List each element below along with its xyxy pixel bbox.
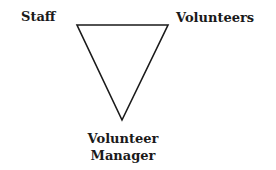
label-volunteer-manager-line2: Manager bbox=[0, 147, 246, 164]
label-volunteer-manager: Volunteer Manager bbox=[0, 130, 246, 164]
label-volunteers: Volunteers bbox=[176, 11, 254, 25]
label-volunteer-manager-line1: Volunteer bbox=[0, 130, 246, 147]
label-staff: Staff bbox=[21, 10, 56, 24]
